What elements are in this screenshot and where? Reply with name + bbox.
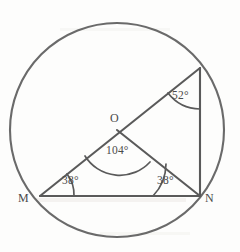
label-vertex-m: M	[18, 192, 29, 204]
label-center-o: O	[110, 112, 119, 124]
geometry-figure: O 52° 104° 38° 38° M N	[0, 0, 240, 252]
angle-arc-center	[85, 156, 150, 175]
label-angle-center-104: 104°	[106, 145, 129, 157]
label-angle-top-52: 52°	[172, 90, 189, 102]
label-vertex-n: N	[205, 192, 214, 204]
geometry-drawing	[0, 0, 240, 252]
label-angle-m-38: 38°	[62, 175, 79, 187]
label-angle-n-38: 38°	[157, 175, 174, 187]
